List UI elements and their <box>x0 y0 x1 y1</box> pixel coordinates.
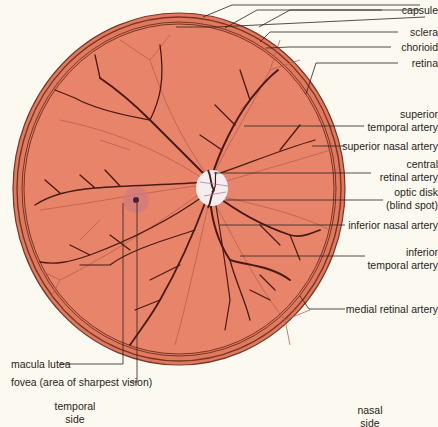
label-optic-disk: optic disk (blind spot) <box>386 186 438 212</box>
label-superior-temporal-artery: superior temporal artery <box>367 108 438 134</box>
label-inferior-temporal-artery: inferior temporal artery <box>367 246 438 272</box>
label-medial-retinal-artery: medial retinal artery <box>346 303 438 316</box>
label-fovea: fovea (area of sharpest vision) <box>11 376 152 389</box>
label-superior-nasal-artery: superior nasal artery <box>342 140 438 153</box>
label-sclera: sclera <box>410 26 438 39</box>
label-capsule: capsule <box>402 4 438 17</box>
label-macula-lutea: macula lutea <box>11 358 71 371</box>
eye-layers <box>13 13 345 365</box>
label-inferior-nasal-artery: inferior nasal artery <box>348 219 438 232</box>
retina-layer <box>24 24 334 354</box>
label-temporal-side: temporal side <box>45 400 105 426</box>
label-chorioid: chorioid <box>401 41 438 54</box>
label-nasal-side: nasal side <box>345 404 395 427</box>
label-retina: retina <box>412 57 438 70</box>
label-central-retinal-artery: central retinal artery <box>380 158 438 184</box>
fovea <box>133 197 139 203</box>
